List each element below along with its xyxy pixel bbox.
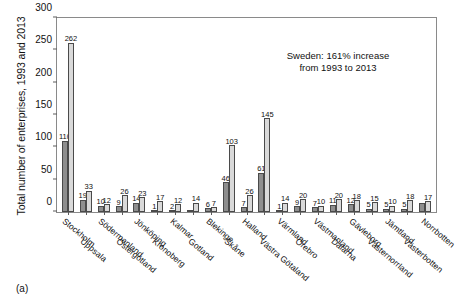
bar-2013: 23 [139,197,145,212]
bar-2013: 26 [247,195,253,212]
bar-2013: 17 [425,201,431,212]
x-axis-label-kalmar: Kalmar [166,214,184,286]
bar-2013: 20 [300,199,306,212]
bar-2013: 20 [336,199,342,212]
bar-value-label: 12 [102,197,110,205]
bar-2013: 18 [407,200,413,212]
bar-group: 114 [273,18,291,212]
bar-value-label: 7 [212,200,216,208]
figure-caption: (a) [16,283,28,294]
x-axis-label-västerbotten: Västerbotten [399,214,417,286]
x-axis-label-norrbotten: Norrbotten [417,214,435,286]
bar-value-label: 262 [65,35,78,43]
bar-group: 46103 [220,18,238,212]
bar-2013: 15 [372,202,378,212]
bar-group: 117 [148,18,166,212]
bar-value-label: 17 [156,194,164,202]
y-tick-label: 50 [41,163,57,174]
bar-group: 920 [291,18,309,212]
bar-group: 518 [398,18,416,212]
bar-2013: 145 [264,118,270,212]
bar-2013: 14 [282,203,288,212]
bar-value-label: 12 [174,197,182,205]
bar-group: 726 [238,18,256,212]
x-axis-labels: StockholmUppsalaSödermanlandÖstergötland… [56,214,437,286]
x-axis-label-jämtland: Jämtland [381,214,399,286]
x-axis-label-gotland: Gotland [184,214,202,286]
bar-group: 110262 [59,18,77,212]
bar-2013: 262 [68,43,74,212]
bar-value-label: 15 [370,195,378,203]
x-axis-label-västmanland: Västmanland [309,214,327,286]
bar-group: 926 [113,18,131,212]
annotation-line-2: from 1993 to 2013 [258,62,418,74]
bar-group: 14 [184,18,202,212]
bar-value-label: 26 [120,188,128,196]
x-axis-label-värmland: Värmland [273,214,291,286]
bar-value-label: 103 [225,138,238,146]
x-axis-label-dalarna: Dalarna [327,214,345,286]
y-tick-label: 100 [35,131,57,142]
x-axis-label-skåne: Skåne [220,214,238,286]
annotation-line-1: Sweden: 161% increase [258,50,418,62]
chart-annotation: Sweden: 161% increase from 1993 to 2013 [258,50,418,74]
bar-group: 1012 [95,18,113,212]
bar-value-label: 23 [138,190,146,198]
bar-group: 510 [380,18,398,212]
bar-group: 1120 [327,18,345,212]
x-axis-label-uppsala: Uppsala [76,214,94,286]
bar-value-label: 18 [406,193,414,201]
bar-value-label: 14 [192,195,200,203]
bar-value-label: 10 [388,198,396,206]
bar-value-label: 18 [353,193,361,201]
bar-value-label: 26 [245,188,253,196]
bar-value-label: 20 [299,192,307,200]
bar-group: 710 [309,18,327,212]
bar-2013: 14 [193,203,199,212]
bar-2013: 18 [354,200,360,212]
bar-group: 1218 [345,18,363,212]
y-tick-label: 150 [35,99,57,110]
y-tick-label: 200 [35,66,57,77]
x-axis-label-östergötland: Östergötland [112,214,130,286]
bar-2013: 33 [86,191,92,212]
bar-2013: 17 [157,201,163,212]
bar-group: 1933 [77,18,95,212]
x-axis-label-västra-götaland: Västra Götaland [255,214,273,286]
bar-value-label: 9 [295,199,299,207]
bar-2013: 12 [175,204,181,212]
bar-group: 1423 [130,18,148,212]
bar-value-label: 33 [85,183,93,191]
bar-value-label: 1 [152,203,156,211]
bar-value-label: 7 [241,200,245,208]
bar-series-container: 1102621933101292614231172121467461037266… [57,18,436,212]
bar-2013: 26 [122,195,128,212]
bar-2013: 12 [104,204,110,212]
y-tick-label: 300 [35,2,57,13]
y-tick-label: 250 [35,34,57,45]
x-axis-label-kronoberg: Kronoberg [148,214,166,286]
plot-area: 050100150200250300 110262193310129261423… [56,17,437,213]
bar-value-label: 5 [402,201,406,209]
bar-group: 515 [363,18,381,212]
x-axis-label-gävleborg: Gävleborg [345,214,363,286]
y-tick-label: 0 [46,196,57,207]
y-axis-title: Total number of enterprises, 1993 and 20… [15,16,27,216]
bar-value-label: 14 [281,195,289,203]
bar-group: 212 [166,18,184,212]
bar-group: 61145 [255,18,273,212]
x-axis-label-örebro: Örebro [291,214,309,286]
x-axis-label-blekinge: Blekinge [202,214,220,286]
bar-value-label: 9 [116,199,120,207]
bar-2013: 103 [229,145,235,212]
x-axis-label-södermanland: Södermanland [94,214,112,286]
bar-value-label: 10 [317,198,325,206]
x-axis-label-stockholm: Stockholm [58,214,76,286]
bar-group: 67 [202,18,220,212]
x-axis-label-text: Norrbotten [420,216,457,249]
bar-value-label: 1 [277,203,281,211]
bar-value-label: 6 [206,201,210,209]
bar-group: 17 [416,18,434,212]
x-axis-label-jönköping: Jönköping [130,214,148,286]
